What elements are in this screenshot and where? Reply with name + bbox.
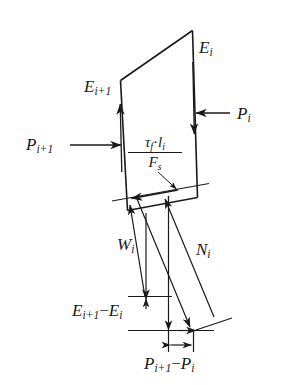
fraction-bar [128, 152, 182, 153]
slice-outline [121, 31, 198, 211]
slice-top-edge [121, 31, 193, 81]
force-arrow-n-i [137, 199, 214, 327]
fraction-denominator: Fs [128, 154, 182, 171]
slice-free-body-diagram: Ei Ei+1 Pi Pi+1 τf·li Fs Wi Ni Ei+1−Ei P… [0, 0, 286, 385]
label-e-i: Ei [199, 39, 213, 56]
label-n-i: Ni [196, 241, 211, 258]
label-e-i-plus-1: Ei+1 [84, 78, 111, 95]
label-delta-p: Pi+1−Pi [144, 355, 194, 372]
dimension-delta-e [128, 297, 214, 331]
force-arrow-shear [132, 172, 179, 199]
construction-bottom-slant [178, 318, 232, 331]
label-w-i: Wi [117, 236, 134, 253]
label-delta-e: Ei+1−Ei [72, 302, 122, 319]
label-p-i-plus-1: Pi+1 [26, 136, 53, 153]
fraction-numerator: τf·li [128, 135, 182, 152]
diagram-canvas [0, 0, 286, 385]
label-p-i: Pi [237, 105, 251, 122]
label-shear-force-fraction: τf·li Fs [128, 135, 182, 171]
slice-base-edge [128, 198, 198, 211]
dimension-delta-p [169, 330, 194, 352]
